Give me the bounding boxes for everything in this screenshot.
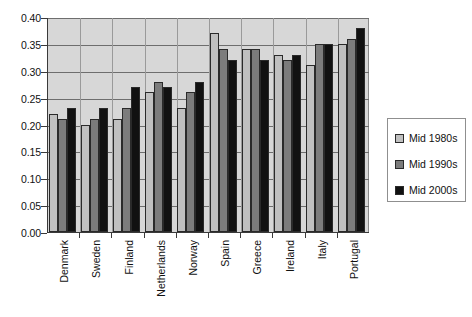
legend-label: Mid 2000s — [409, 185, 457, 196]
bar — [58, 119, 67, 232]
x-axis-tick-mark — [208, 233, 209, 238]
y-axis-tick-mark — [41, 233, 47, 234]
y-axis: 0.000.050.100.150.200.250.300.350.40 — [0, 18, 41, 233]
bar — [251, 49, 260, 232]
x-axis-label: Italy — [317, 240, 328, 259]
bar — [122, 108, 131, 232]
bar — [347, 39, 356, 233]
bar — [315, 44, 324, 232]
bar — [283, 60, 292, 232]
bar-group — [80, 18, 112, 232]
y-axis-tick-label: 0.10 — [7, 174, 41, 184]
x-axis-label: Denmark — [59, 240, 70, 283]
y-axis-tick-label: 0.00 — [7, 228, 41, 238]
bar — [306, 65, 315, 232]
legend: Mid 1980sMid 1990sMid 2000s — [387, 118, 466, 202]
bar-group — [209, 18, 241, 232]
bar-group — [338, 18, 370, 232]
bar — [177, 108, 186, 232]
bar-group — [306, 18, 338, 232]
bar-group — [273, 18, 305, 232]
x-axis-label: Sweden — [91, 240, 102, 278]
x-axis-label: Portugal — [349, 240, 360, 279]
y-axis-tick-label: 0.35 — [7, 40, 41, 50]
bar — [90, 119, 99, 232]
y-axis-tick-label: 0.15 — [7, 147, 41, 157]
y-axis-tick-mark — [41, 18, 47, 19]
bar — [154, 82, 163, 233]
bar — [260, 60, 269, 232]
x-axis-tick-mark — [111, 233, 112, 238]
y-axis-tick-mark — [41, 45, 47, 46]
bar — [292, 55, 301, 232]
legend-label: Mid 1990s — [409, 159, 457, 170]
x-axis-tick-mark — [144, 233, 145, 238]
plot-background — [47, 18, 369, 233]
y-axis-tick-label: 0.25 — [7, 94, 41, 104]
bar — [274, 55, 283, 232]
x-axis-tick-mark — [240, 233, 241, 238]
legend-label: Mid 1980s — [409, 133, 457, 144]
bar — [324, 44, 333, 232]
bar — [219, 49, 228, 232]
x-axis-label: Norway — [188, 240, 199, 276]
bar — [242, 49, 251, 232]
bar — [145, 92, 154, 232]
y-axis-tick-label: 0.05 — [7, 201, 41, 211]
x-axis-label: Finland — [124, 240, 135, 274]
x-axis-label: Spain — [220, 240, 231, 267]
y-axis-tick-label: 0.20 — [7, 121, 41, 131]
x-axis-tick-mark — [79, 233, 80, 238]
bar — [195, 82, 204, 233]
y-axis-tick-label: 0.30 — [7, 67, 41, 77]
y-axis-tick-label: 0.40 — [7, 13, 41, 23]
legend-item[interactable]: Mid 2000s — [395, 184, 457, 196]
x-axis-tick-mark — [305, 233, 306, 238]
legend-item[interactable]: Mid 1980s — [395, 132, 457, 144]
bar — [163, 87, 172, 232]
legend-item[interactable]: Mid 1990s — [395, 158, 457, 170]
plot-area — [47, 18, 369, 233]
x-axis-tick-mark — [176, 233, 177, 238]
bar — [113, 119, 122, 232]
x-axis-tick-mark — [337, 233, 338, 238]
bar — [131, 87, 140, 232]
x-axis-label: Ireland — [285, 240, 296, 272]
bar — [49, 114, 58, 232]
x-axis-label: Greece — [252, 240, 263, 274]
legend-swatch-icon — [395, 134, 404, 143]
bar-group — [241, 18, 273, 232]
y-axis-tick-mark — [41, 179, 47, 180]
legend-swatch-icon — [395, 160, 404, 169]
bar — [99, 108, 108, 232]
bar-group — [112, 18, 144, 232]
y-axis-tick-mark — [41, 72, 47, 73]
bar — [338, 44, 347, 232]
bar — [228, 60, 237, 232]
y-axis-tick-mark — [41, 99, 47, 100]
bar — [81, 125, 90, 233]
bar-group — [177, 18, 209, 232]
x-axis-tick-mark — [272, 233, 273, 238]
y-axis-tick-mark — [41, 152, 47, 153]
bar — [186, 92, 195, 232]
bar-chart: 0.000.050.100.150.200.250.300.350.40 Den… — [0, 0, 472, 317]
bar — [210, 33, 219, 232]
bar — [356, 28, 365, 232]
corner-watermark — [467, 308, 469, 315]
y-axis-tick-mark — [41, 126, 47, 127]
y-axis-tick-mark — [41, 206, 47, 207]
bar-group — [48, 18, 80, 232]
legend-swatch-icon — [395, 186, 404, 195]
x-axis-label: Netherlands — [156, 240, 167, 297]
bar-group — [145, 18, 177, 232]
bar — [67, 108, 76, 232]
